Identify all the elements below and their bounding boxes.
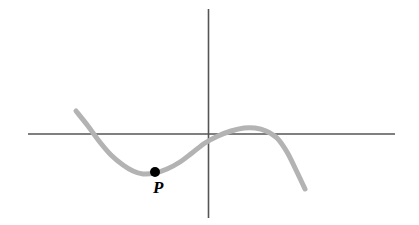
point-p-marker xyxy=(150,167,160,177)
graph-figure: P xyxy=(0,0,419,225)
figure-background xyxy=(0,0,419,225)
coordinate-plane-svg xyxy=(0,0,419,225)
point-p-label: P xyxy=(153,179,163,196)
